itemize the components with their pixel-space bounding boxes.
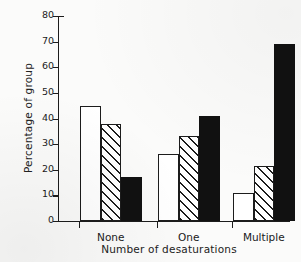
y-axis-tick-label: 10 <box>42 188 54 199</box>
y-axis-tick-label: 60 <box>42 60 54 71</box>
bar-multiple-hatched <box>254 166 275 221</box>
x-axis-tick-mark <box>79 221 80 228</box>
y-axis-title: Percentage of group <box>22 28 34 208</box>
y-axis-tick-label: 40 <box>42 112 54 123</box>
y-axis-line <box>58 16 59 222</box>
y-axis-tick-label: 70 <box>42 35 54 46</box>
bar-chart-figure: Percentage of group Number of desaturati… <box>0 0 301 262</box>
x-axis-line <box>58 221 290 222</box>
x-axis-tick-mark <box>157 221 158 228</box>
x-axis-tick-mark <box>232 221 233 228</box>
bar-none-hatched <box>101 124 122 221</box>
y-axis-top-cap <box>58 16 64 17</box>
bar-one-hatched <box>179 136 200 221</box>
y-axis-tick-label: 50 <box>42 86 54 97</box>
bar-one-open <box>158 154 179 221</box>
x-axis-category-label: Multiple <box>243 231 285 243</box>
y-axis-tick-label: 20 <box>42 163 54 174</box>
x-axis-category-label: One <box>178 231 199 243</box>
bar-none-solid <box>121 177 142 221</box>
bar-one-solid <box>199 116 220 221</box>
y-axis-tick-label: 30 <box>42 137 54 148</box>
plot-area: 01020304050607080 NoneOneMultiple <box>58 16 290 222</box>
bar-multiple-open <box>233 193 254 221</box>
y-axis-tick-label: 0 <box>48 214 54 225</box>
y-axis-tick-label: 80 <box>42 9 54 20</box>
x-axis-category-label: None <box>97 231 124 243</box>
x-axis-title: Number of desaturations <box>44 243 294 255</box>
bar-multiple-solid <box>274 44 295 221</box>
bar-none-open <box>80 106 101 221</box>
